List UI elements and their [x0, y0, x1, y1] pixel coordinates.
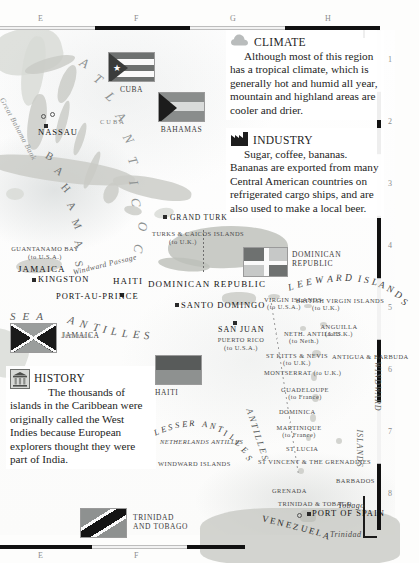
label-abc-islands: NETHERLANDS ANTILLES [160, 438, 243, 445]
label-anguilla-text: ANGUILLA [320, 323, 357, 330]
label-turks-caicos-text: TURKS & CAICOS ISLANDS [152, 230, 244, 237]
label-martinique-text: MARTINIQUE [276, 424, 321, 431]
grid-mark-right-1: 1 [388, 55, 393, 64]
grid-mark-top-h: H [325, 14, 331, 23]
label-st-lucia: ST LUCIA [286, 445, 318, 452]
museum-building-icon [10, 369, 30, 389]
landmass-st-lucia [310, 414, 316, 422]
label-british-virgin-islands-note: (to U.K.) [312, 304, 340, 311]
grid-mark-bottom-e: E [38, 551, 43, 560]
flag-label-dominican-republic-text: DOMINICAN REPUBLIC [292, 250, 341, 268]
label-montserrat-text: MONTSERRAT [264, 369, 312, 376]
label-british-virgin-islands: BRITISH VIRGIN ISLANDS (to U.K.) [296, 297, 356, 311]
label-montserrat: MONTSERRAT (to U.K.) [264, 369, 341, 376]
info-body-industry: Sugar, coffee, bananas. Bananas are expo… [230, 148, 380, 215]
label-cuba-island: CUBA [100, 118, 126, 125]
flag-block-trinidad-and-tobago [80, 508, 127, 538]
info-body-history: The thousands of islands in the Caribbea… [10, 386, 152, 466]
flag-haiti [155, 355, 202, 385]
label-port-au-prince: PORT-AU-PRINCE [56, 291, 139, 301]
label-haiti-country: HAITI [113, 276, 143, 286]
ruler-segment [95, 26, 190, 30]
grid-mark-right-8: 8 [388, 489, 393, 498]
capital-dot-kingston [32, 278, 36, 282]
ruler-segment [0, 26, 95, 30]
label-lesser-antilles-vertical: ANTILLES [244, 400, 268, 490]
label-jamaica-island: JAMAICA [18, 264, 66, 274]
ruler-segment [187, 545, 245, 549]
ruler-segment [377, 464, 381, 530]
label-santo-domingo: SANTO DOMINGO [181, 300, 265, 310]
label-netherlands-antilles: WINDWARD ISLANDS [158, 460, 230, 468]
grid-mark-right-3: 3 [388, 179, 393, 188]
landmass-isla-juventud [6, 188, 24, 200]
label-british-virgin-islands-text: BRITISH VIRGIN ISLANDS [296, 297, 384, 304]
info-heading-history: HISTORY [34, 372, 85, 384]
grid-mark-right-4: 4 [388, 241, 393, 250]
label-puerto-rico: PUERTO RICO (to U.S.A.) [211, 336, 271, 351]
flag-label-trinidad-and-tobago-text: TRINIDAD AND TOBAGO [133, 513, 188, 531]
label-turks-caicos-note: (to U.K.) [169, 238, 197, 245]
label-venezuela: V E N E Z U E L A [262, 514, 342, 544]
flag-block-jamaica [10, 323, 57, 353]
capital-dot-grand-turk [163, 215, 167, 219]
label-netherlands-antilles-text: WINDWARD ISLANDS [158, 460, 231, 467]
grid-mark-right-6: 6 [388, 365, 393, 374]
label-sea-word: SEA [10, 310, 50, 322]
label-windward-islands: WINDWARD ISLANDS [348, 382, 374, 482]
label-jamaica-italic: Jamaica [61, 331, 92, 340]
flag-jamaica [10, 323, 57, 353]
label-turks-caicos: TURKS & CAICOS ISLANDS (to U.K.) [152, 230, 214, 245]
label-guantanamo-bay: GUANTANAMO BAY (to U.S.A.) [6, 245, 84, 260]
label-st-kitts-nevis-note: (to U.K.) [283, 359, 311, 366]
grid-mark-top-g: G [230, 14, 236, 23]
flag-label-trinidad-and-tobago: TRINIDAD AND TOBAGO [133, 513, 189, 531]
grid-mark-right-7: 7 [388, 427, 393, 436]
label-grand-turk-text: GRAND TURK [170, 213, 227, 222]
info-heading-climate: CLIMATE [254, 36, 306, 48]
label-puerto-rico-text: PUERTO RICO [218, 336, 265, 343]
label-san-juan: SAN JUAN [218, 325, 264, 334]
capital-dot-santo-domingo [175, 303, 179, 307]
info-panel-history: HISTORY The thousands of islands in the … [6, 366, 156, 469]
flag-label-haiti: HAITI [155, 388, 202, 397]
grid-mark-top-f: F [134, 14, 139, 23]
flag-label-dominican-republic: DOMINICAN REPUBLIC [292, 250, 352, 268]
city-circle-nassau-a [41, 114, 46, 119]
flag-dominican-republic [243, 247, 288, 277]
label-puerto-rico-note: (to U.S.A.) [224, 344, 258, 351]
label-tobago-island: Tobago [338, 501, 365, 510]
label-antigua-barbuda: ANTIGUA & BARBUDA [332, 353, 386, 361]
label-guadeloupe-note: (to France) [288, 393, 322, 400]
info-heading-industry: INDUSTRY [253, 134, 313, 146]
label-abc-islands-text: NETHERLANDS ANTILLES [160, 438, 243, 445]
grid-mark-bottom-f: F [134, 551, 139, 560]
label-guantanamo-bay-note: (to U.S.A.) [28, 253, 62, 260]
label-nassau: NASSAU [38, 127, 78, 137]
label-martinique-note: (to France) [282, 431, 316, 438]
label-kingston: KINGSTON [38, 274, 89, 284]
label-dominican-republic-country: DOMINICAN REPUBLIC [148, 279, 266, 289]
landmass-barbados [336, 438, 342, 444]
ruler-segment [0, 545, 92, 549]
flag-block-dominican-republic [243, 247, 288, 277]
label-neth-antilles-north-note: (to Neth.) [289, 337, 319, 344]
label-st-kitts-nevis-text: ST KITTS & NEVIS [266, 352, 328, 359]
grid-mark-right-2: 2 [388, 117, 393, 126]
ruler-segment [92, 545, 187, 549]
info-body-climate: Although most of this region has a tropi… [230, 50, 380, 117]
label-lesser-antilles: L E S S E R A N T I L L E S [154, 415, 244, 455]
label-martinique: MARTINIQUE (to France) [268, 424, 330, 438]
label-dominica: DOMINICA [279, 408, 316, 415]
flag-block-haiti: HAITI [155, 355, 202, 397]
city-circle-nassau-b [50, 112, 55, 117]
label-montserrat-note: (to U.K.) [314, 369, 342, 376]
label-neth-antilles-north: NETH. ANTILLES (to Neth.) [284, 330, 324, 344]
label-guadeloupe: GUADELOUPE (to France) [274, 386, 336, 400]
flag-trinidad-and-tobago [80, 508, 127, 538]
label-guantanamo-bay-text: GUANTANAMO BAY [11, 245, 79, 252]
label-antigua-barbuda-text: ANTIGUA & BARBUDA [332, 353, 409, 360]
label-st-kitts-nevis: ST KITTS & NEVIS (to U.K.) [266, 352, 328, 366]
label-guadeloupe-text: GUADELOUPE [281, 386, 329, 393]
label-antilles-word: A N T I L L E S [68, 312, 178, 348]
